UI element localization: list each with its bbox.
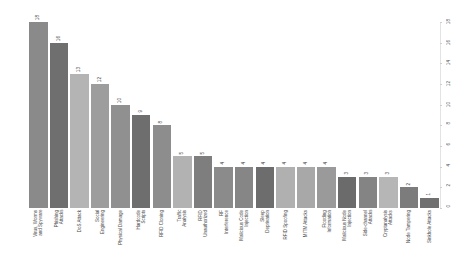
bar-value-label: 3 xyxy=(345,172,350,175)
x-axis-category-label: Physical Damage xyxy=(118,210,123,245)
bar[interactable] xyxy=(420,198,438,208)
bar-value-label: 16 xyxy=(57,36,62,41)
bar[interactable] xyxy=(338,177,356,208)
bar-slot[interactable]: 10 xyxy=(111,22,129,208)
y-axis-tick-mark xyxy=(440,187,442,188)
y-axis-tick-label: 8 xyxy=(446,122,451,125)
bar[interactable] xyxy=(359,177,377,208)
x-axis-label-slot: Sinkhole Attacks xyxy=(420,210,438,274)
x-axis-label-slot: Phishing Attacks xyxy=(50,210,68,274)
bar-value-label: 5 xyxy=(201,152,206,155)
bar-value-label: 4 xyxy=(262,162,267,165)
bar-slot[interactable]: 3 xyxy=(338,22,356,208)
bar-slot[interactable]: 8 xyxy=(153,22,171,208)
y-axis-tick-mark xyxy=(440,22,442,23)
bar[interactable] xyxy=(91,84,109,208)
x-axis-label-slot: Malicious Node Injection xyxy=(338,210,356,274)
y-axis-tick-label: 18 xyxy=(446,19,451,24)
x-axis-label-slot: RFID Spoofing xyxy=(276,210,294,274)
bar-slot[interactable]: 3 xyxy=(359,22,377,208)
y-axis-tick-label: 16 xyxy=(446,40,451,45)
x-axis-label-slot: Malicious Code Injection xyxy=(235,210,253,274)
y-axis-tick-mark xyxy=(440,43,442,44)
bar-slot[interactable]: 16 xyxy=(50,22,68,208)
x-axis-label-slot: DoS Attack xyxy=(70,210,88,274)
x-axis-label-slot: Traffic Analysis xyxy=(173,210,191,274)
bar[interactable] xyxy=(379,177,397,208)
bar-value-label: 8 xyxy=(159,121,164,124)
bar-slot[interactable]: 18 xyxy=(29,22,47,208)
bar[interactable] xyxy=(173,156,191,208)
y-axis-tick-mark xyxy=(440,105,442,106)
bar-value-label: 5 xyxy=(180,152,185,155)
bar[interactable] xyxy=(297,167,315,208)
bar-value-label: 9 xyxy=(139,110,144,113)
bar-slot[interactable]: 12 xyxy=(91,22,109,208)
y-axis-tick-label: 14 xyxy=(446,60,451,65)
x-axis-label-slot: Node Tampering xyxy=(400,210,418,274)
x-axis-label-slot: Flooding Information xyxy=(317,210,335,274)
bar-slot[interactable]: 4 xyxy=(256,22,274,208)
bar[interactable] xyxy=(29,22,47,208)
x-axis-category-label: DoS Attack xyxy=(77,210,82,232)
bar-slot[interactable]: 13 xyxy=(70,22,88,208)
y-axis-tick-mark xyxy=(440,208,442,209)
x-axis-label-slot: Physical Damage xyxy=(111,210,129,274)
bar-slot[interactable]: 1 xyxy=(420,22,438,208)
bar-slot[interactable]: 4 xyxy=(276,22,294,208)
x-axis-category-label: Malicious Node Injection xyxy=(342,210,352,241)
bar[interactable] xyxy=(194,156,212,208)
x-axis-category-label: MITM Attacks xyxy=(303,210,308,237)
x-axis-category-label: RFID Spoofing xyxy=(283,210,288,240)
bar-slot[interactable]: 4 xyxy=(235,22,253,208)
x-axis-category-label: Social Engineering xyxy=(95,210,105,234)
x-axis-label-slot: RFID Cloning xyxy=(153,210,171,274)
bar-value-label: 4 xyxy=(221,162,226,165)
bar-slot[interactable]: 4 xyxy=(214,22,232,208)
x-axis-category-label: Sinkhole Attacks xyxy=(427,210,432,243)
x-axis-category-label: Cryptanalysis Attacks xyxy=(383,210,393,237)
x-axis-label-slot: Cryptanalysis Attacks xyxy=(379,210,397,274)
y-axis-tick-label: 4 xyxy=(446,164,451,167)
bar[interactable] xyxy=(235,167,253,208)
bar[interactable] xyxy=(132,115,150,208)
x-axis-category-label: Malicious Code Injection xyxy=(239,210,249,241)
bar[interactable] xyxy=(317,167,335,208)
x-axis-category-label: RFID Unauthorized xyxy=(198,210,208,237)
y-axis-line xyxy=(440,22,441,208)
x-axis-label-slot: Virus, Worms and Spyware xyxy=(29,210,47,274)
bar-value-label: 4 xyxy=(304,162,309,165)
y-axis-tick-label: 10 xyxy=(446,102,451,107)
y-axis-tick-label: 6 xyxy=(446,143,451,146)
bar[interactable] xyxy=(214,167,232,208)
bar-value-label: 4 xyxy=(324,162,329,165)
bar[interactable] xyxy=(400,187,418,208)
bar-value-label: 12 xyxy=(98,77,103,82)
bar-slot[interactable]: 5 xyxy=(173,22,191,208)
bar-slot[interactable]: 5 xyxy=(194,22,212,208)
bar-value-label: 1 xyxy=(427,193,432,196)
x-axis-category-label: Sleep Deprivation xyxy=(260,210,270,233)
bar-slot[interactable]: 4 xyxy=(317,22,335,208)
bar[interactable] xyxy=(111,105,129,208)
bar[interactable] xyxy=(153,125,171,208)
bar-slot[interactable]: 4 xyxy=(297,22,315,208)
x-axis-labels: Virus, Worms and SpywarePhishing Attacks… xyxy=(28,210,440,274)
x-axis-label-slot: RF Interference xyxy=(214,210,232,274)
x-axis-category-label: Traffic Analysis xyxy=(177,210,187,227)
bar-value-label: 3 xyxy=(365,172,370,175)
bar[interactable] xyxy=(50,43,68,208)
x-axis-label-slot: Social Engineering xyxy=(91,210,109,274)
bar[interactable] xyxy=(70,74,88,208)
y-axis-tick-mark xyxy=(440,167,442,168)
y-axis-tick-mark xyxy=(440,63,442,64)
plot-area: 1816131210985544444433321 xyxy=(28,22,440,208)
bar-slot[interactable]: 3 xyxy=(379,22,397,208)
y-axis-tick-label: 2 xyxy=(446,184,451,187)
bar-slot[interactable]: 9 xyxy=(132,22,150,208)
bar[interactable] xyxy=(256,167,274,208)
x-axis-label-slot: RFID Unauthorized xyxy=(194,210,212,274)
x-axis-category-label: Hardcode Scripts xyxy=(136,210,146,230)
bar-slot[interactable]: 2 xyxy=(400,22,418,208)
bar[interactable] xyxy=(276,167,294,208)
